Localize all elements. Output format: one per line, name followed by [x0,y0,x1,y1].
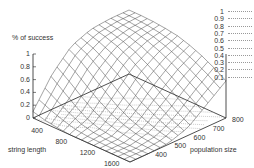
legend-entry: 0.2 [206,66,254,73]
legend-entry: 1 [206,8,254,15]
legend-entry: 0.1 [206,74,254,81]
x-tick-label: 400 [31,127,43,135]
y-tick-label: 700 [213,125,225,133]
legend-label: 0.2 [214,66,224,73]
legend-label: 0.6 [214,37,224,44]
legend-entry: 0.5 [206,45,254,52]
legend-line-swatch [228,11,252,12]
legend-line-swatch [228,77,252,78]
y-tick-label: 500 [174,142,186,150]
legend-label: 0.4 [214,52,224,59]
y-tick-label: 400 [155,151,167,159]
legend-line-swatch [228,69,252,70]
legend-line-swatch [228,62,252,63]
legend-line-swatch [228,55,252,56]
legend-entry: 0.6 [206,37,254,44]
y-tick-label: 800 [232,116,244,124]
legend-entry: 0.8 [206,23,254,30]
x-tick-label: 1600 [104,160,120,168]
legend-entry: 0.7 [206,30,254,37]
legend-line-swatch [228,33,252,34]
legend-line-swatch [228,40,252,41]
z-tick-label: 0.4 [14,88,30,96]
x-axis-label: string length [8,146,46,154]
legend-label: 0.8 [214,23,224,30]
legend-label: 0.1 [214,74,224,81]
legend-entry: 0.4 [206,52,254,59]
z-tick-label: 0.6 [14,76,30,84]
z-tick-label: 0 [14,114,30,122]
legend-line-swatch [228,26,252,27]
legend-entry: 0.9 [206,15,254,22]
legend-line-swatch [228,48,252,49]
legend-label: 0.5 [214,45,224,52]
y-axis-label: population size [190,146,237,154]
z-axis-label: % of success [12,34,53,42]
y-tick-label: 600 [194,134,206,142]
z-tick-label: 0.2 [14,101,30,109]
legend-line-swatch [228,18,252,19]
legend-entry: 0.3 [206,59,254,66]
z-tick-label: 0.8 [14,63,30,71]
legend-label: 0.7 [214,30,224,37]
z-tick-label: 1 [14,50,30,58]
legend-label: 1 [220,8,224,15]
x-tick-label: 800 [55,138,67,146]
x-tick-label: 1200 [80,149,96,157]
legend-label: 0.9 [214,15,224,22]
legend-label: 0.3 [214,59,224,66]
